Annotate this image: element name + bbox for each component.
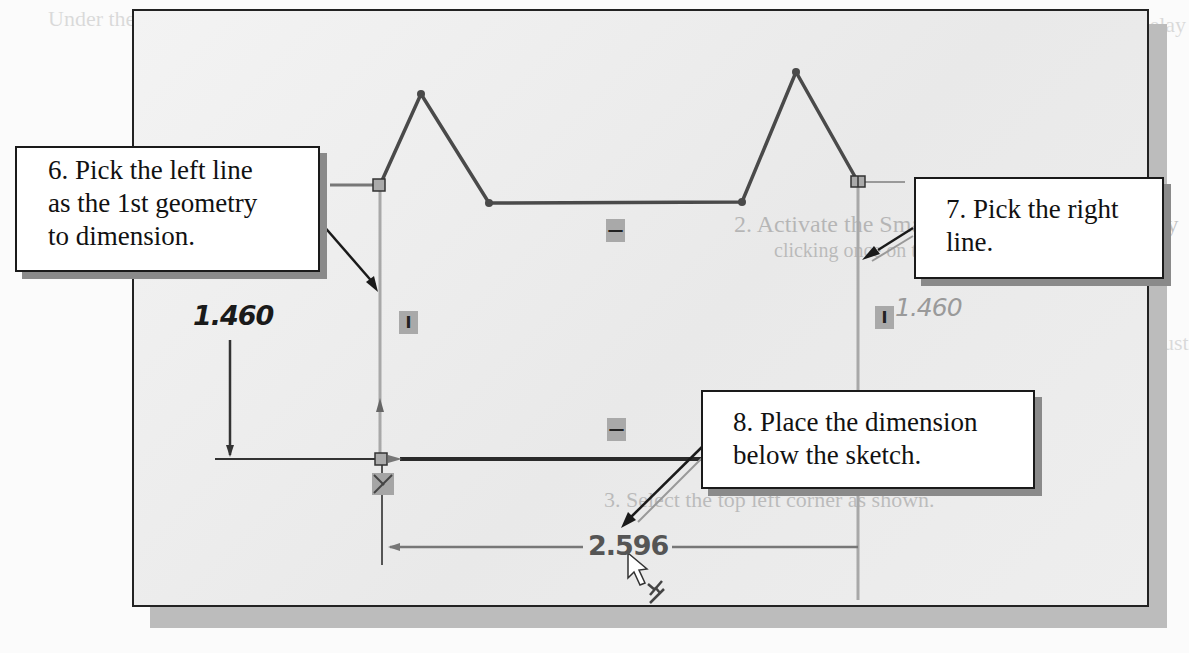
vertex-point [738, 198, 746, 206]
dimension-value-right-preview: 1.460 [895, 293, 962, 322]
callout-step7-line2: line. [946, 226, 1162, 259]
dimension-value-left[interactable]: 1.460 [193, 300, 273, 331]
sketch-profile [380, 72, 858, 203]
endpoint-handle [373, 179, 385, 191]
vertex-point [485, 199, 493, 207]
callout-step6-line2: as the 1st geometry [48, 187, 318, 220]
vertex-point [417, 90, 425, 98]
dimension-value-horizontal[interactable]: 2.596 [588, 530, 668, 561]
dimension-cursor-glyph [648, 581, 664, 603]
arrow-head [376, 398, 384, 412]
vertical-relation-icon[interactable]: I [399, 311, 418, 334]
callout-arrow-step6 [322, 224, 375, 285]
callout-step7-line1: 7. Pick the right [946, 193, 1162, 226]
callout-step6: 6. Pick the left line as the 1st geometr… [15, 146, 320, 272]
arrow-head [388, 455, 402, 463]
vertex-point [792, 68, 800, 76]
callout-step8-line1: 8. Place the dimension [733, 406, 1033, 439]
callout-step8: 8. Place the dimension below the sketch. [701, 390, 1035, 489]
callout-step6-line3: to dimension. [48, 220, 318, 253]
vertical-relation-icon[interactable]: I [875, 306, 894, 329]
callout-step6-line1: 6. Pick the left line [48, 154, 318, 187]
horizontal-relation-icon[interactable]: — [606, 219, 625, 242]
callout-step8-line2: below the sketch. [733, 439, 1033, 472]
callout-arrow-step8 [630, 445, 704, 518]
callout-step7: 7. Pick the right line. [914, 177, 1164, 279]
origin-handle [375, 453, 387, 465]
horizontal-relation-icon[interactable]: — [607, 418, 626, 441]
